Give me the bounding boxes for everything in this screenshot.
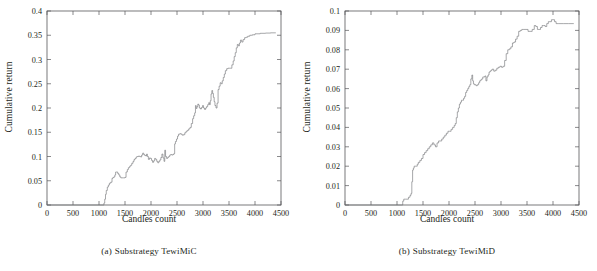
y-tick-label: 0.3 — [32, 56, 42, 65]
plot-frame — [345, 11, 579, 205]
plot-frame — [47, 11, 281, 205]
panel-a: Cumulative return 0500100015002000250030… — [0, 0, 298, 271]
y-tick-label: 0.02 — [326, 162, 340, 171]
series-line — [345, 20, 574, 205]
panel-a-y-axis-title: Cumulative return — [2, 0, 16, 194]
y-tick-label: 0.01 — [326, 182, 340, 191]
figure-cumulative-returns: Cumulative return 0500100015002000250030… — [0, 0, 597, 271]
y-tick-label: 0.25 — [28, 80, 42, 89]
series-line — [47, 33, 276, 205]
y-tick-label: 0 — [38, 201, 42, 210]
panel-a-chart: 05001000150020002500300035004000450000.0… — [0, 0, 298, 232]
panel-b-y-axis-title: Cumulative return — [300, 0, 314, 194]
y-tick-label: 0.4 — [32, 7, 42, 16]
panel-b-caption-label: (b) — [399, 246, 410, 256]
panel-b: Cumulative return 0500100015002000250030… — [298, 0, 596, 271]
panel-a-caption-text: Substrategy TewiMiC — [115, 246, 197, 256]
y-tick-label: 0.2 — [32, 104, 42, 113]
y-tick-label: 0.07 — [326, 65, 340, 74]
y-tick-label: 0.03 — [326, 143, 340, 152]
panel-b-plot-wrap: Cumulative return 0500100015002000250030… — [298, 0, 596, 232]
panel-a-caption-label: (a) — [101, 246, 111, 256]
panel-b-caption-text: Substrategy TewiMiD — [413, 246, 495, 256]
y-tick-label: 0.1 — [32, 153, 42, 162]
y-tick-label: 0.15 — [28, 128, 42, 137]
panel-b-y-axis-title-text: Cumulative return — [302, 61, 312, 132]
panel-a-x-axis-title: Candles count — [0, 214, 298, 224]
y-tick-label: 0.1 — [330, 7, 340, 16]
y-tick-label: 0.06 — [326, 85, 340, 94]
panel-b-caption: (b)Substrategy TewiMiD — [298, 246, 596, 256]
panel-a-y-axis-title-text: Cumulative return — [4, 61, 14, 132]
y-tick-label: 0.05 — [326, 104, 340, 113]
y-tick-label: 0.35 — [28, 31, 42, 40]
y-tick-label: 0.04 — [326, 123, 340, 132]
y-tick-label: 0 — [336, 201, 340, 210]
panel-b-chart: 05001000150020002500300035004000450000.0… — [298, 0, 596, 232]
y-tick-label: 0.08 — [326, 46, 340, 55]
panel-a-caption: (a)Substrategy TewiMiC — [0, 246, 298, 256]
panel-b-x-axis-title: Candles count — [298, 214, 596, 224]
y-tick-label: 0.05 — [28, 177, 42, 186]
y-tick-label: 0.09 — [326, 26, 340, 35]
panel-a-plot-wrap: Cumulative return 0500100015002000250030… — [0, 0, 298, 232]
